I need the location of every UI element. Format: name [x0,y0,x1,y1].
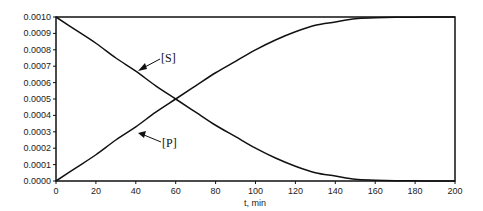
annotation-s-label: [S] [161,51,176,65]
y-tick-label: 0.0007 [23,61,51,71]
y-tick-label: 0.0005 [23,94,51,104]
annotation-p: [P] [138,131,177,150]
y-tick-label: 0.0004 [23,110,51,120]
series-s-line [56,17,455,181]
x-axis-ticks: 020406080100120140160180200 [53,181,462,196]
y-tick-label: 0.0003 [23,127,51,137]
x-tick-label: 140 [328,186,343,196]
x-tick-label: 200 [447,186,462,196]
x-tick-label: 0 [53,186,58,196]
x-tick-label: 20 [91,186,101,196]
y-tick-label: 0.0000 [23,176,51,186]
data-series [56,17,455,181]
annotation-p-label: [P] [162,136,177,150]
y-tick-label: 0.0010 [23,12,51,22]
y-tick-label: 0.0006 [23,78,51,88]
x-tick-label: 100 [248,186,263,196]
arrow-s-head-icon [138,63,147,71]
y-tick-label: 0.0008 [23,45,51,55]
arrow-p-line [144,135,161,142]
x-tick-label: 40 [131,186,141,196]
y-tick-label: 0.0001 [23,160,51,170]
arrow-p-head-icon [138,131,146,138]
x-tick-label: 160 [368,186,383,196]
x-tick-label: 180 [408,186,423,196]
reaction-progress-chart: 0.00000.00010.00020.00030.00040.00050.00… [0,0,483,211]
x-tick-label: 60 [171,186,181,196]
y-tick-label: 0.0002 [23,143,51,153]
annotation-s: [S] [138,51,176,71]
x-tick-label: 80 [211,186,221,196]
x-axis-label: t, min [244,198,266,208]
y-axis-ticks: 0.00000.00010.00020.00030.00040.00050.00… [23,12,56,186]
x-tick-label: 120 [288,186,303,196]
y-tick-label: 0.0009 [23,28,51,38]
series-p-line [56,17,455,181]
plot-area-frame [56,17,455,181]
